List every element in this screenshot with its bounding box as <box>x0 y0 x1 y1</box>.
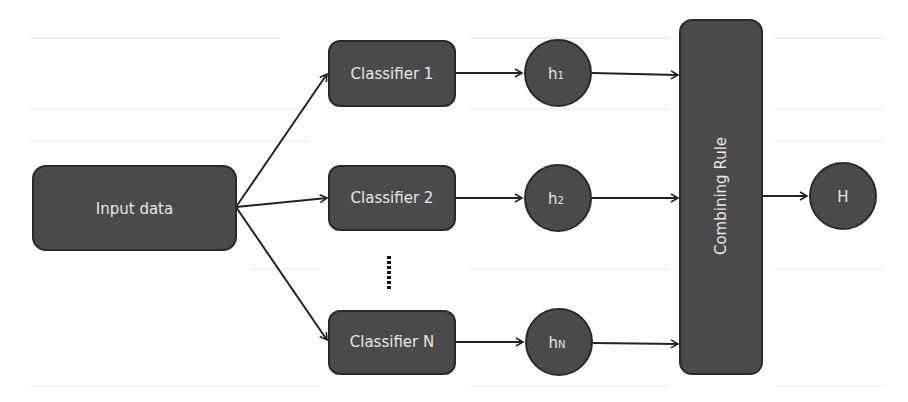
vertical-ellipsis-icon <box>387 256 391 289</box>
arrow-hn-to-combiner <box>593 343 678 344</box>
classifier-2-node: Classifier 2 <box>329 166 455 230</box>
combining-rule-label: Combining Rule <box>712 137 730 255</box>
edges-hypotheses-to-combiner <box>592 73 678 344</box>
edges-input-to-classifiers <box>236 74 327 340</box>
hypothesis-h2-node: h2 <box>525 165 591 231</box>
classifier-n-node: Classifier N <box>329 311 455 374</box>
input-data-node: Input data <box>33 166 236 250</box>
classifier-n-label: Classifier N <box>350 333 434 351</box>
edges-classifiers-to-hypotheses <box>455 73 523 342</box>
input-data-label: Input data <box>96 200 173 218</box>
arrow-input-to-classifier-n <box>236 207 327 340</box>
output-h-label: H <box>837 188 848 206</box>
hypothesis-h1-node: h1 <box>525 40 591 106</box>
arrow-input-to-classifier-1 <box>236 74 327 207</box>
output-h-node: H <box>810 163 876 229</box>
arrow-h1-to-combiner <box>592 73 678 75</box>
arrow-input-to-classifier-2 <box>236 198 327 207</box>
classifier-2-label: Classifier 2 <box>351 189 434 207</box>
combining-rule-node: Combining Rule <box>680 20 762 374</box>
hypothesis-hn-node: hN <box>526 309 592 375</box>
classifier-1-node: Classifier 1 <box>329 41 455 106</box>
ensemble-diagram: Input data Classifier 1 Classifier 2 Cla… <box>0 0 908 402</box>
classifier-1-label: Classifier 1 <box>351 65 434 83</box>
